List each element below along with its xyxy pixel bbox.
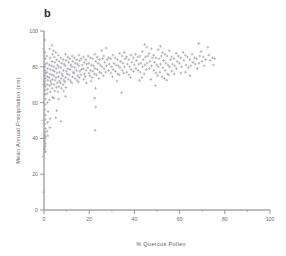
data-point: [132, 56, 135, 59]
data-point: [180, 72, 183, 75]
data-point: [173, 57, 176, 60]
data-point: [138, 79, 141, 82]
data-point: [56, 82, 59, 85]
data-point: [194, 63, 197, 66]
data-point: [166, 55, 169, 58]
data-point: [189, 74, 192, 77]
data-point: [198, 62, 201, 65]
data-point: [64, 76, 67, 79]
data-point: [50, 82, 53, 85]
data-point: [93, 53, 96, 56]
data-point: [143, 43, 146, 46]
data-point: [175, 67, 178, 70]
data-point: [60, 62, 63, 65]
data-point: [60, 87, 63, 90]
data-point: [82, 78, 85, 81]
data-point: [122, 72, 125, 75]
data-point: [84, 75, 87, 78]
data-point: [51, 78, 54, 81]
panel-label: b: [44, 7, 51, 19]
data-point: [145, 68, 148, 71]
data-point: [100, 49, 103, 52]
data-point: [96, 56, 99, 59]
data-point: [71, 55, 74, 58]
data-point: [140, 76, 143, 79]
data-point: [99, 64, 102, 67]
data-point: [135, 59, 138, 62]
data-point: [83, 73, 86, 76]
data-point: [77, 65, 80, 68]
data-point: [81, 64, 84, 67]
data-point: [44, 150, 47, 153]
data-point: [78, 59, 81, 62]
data-point: [149, 78, 152, 81]
data-point: [46, 83, 49, 86]
data-point: [110, 65, 113, 68]
data-point: [128, 65, 131, 68]
data-point: [153, 61, 156, 64]
data-point: [182, 51, 185, 54]
data-point: [114, 56, 117, 59]
data-point: [65, 86, 68, 89]
data-point: [57, 98, 60, 101]
data-point: [137, 69, 140, 72]
data-point: [141, 65, 144, 68]
data-point: [188, 58, 191, 61]
data-point: [62, 90, 65, 93]
data-point: [168, 49, 171, 52]
data-point: [119, 66, 122, 69]
data-point: [85, 69, 88, 72]
data-point: [133, 64, 136, 67]
data-point: [130, 68, 133, 71]
data-point: [126, 63, 129, 66]
data-point: [71, 75, 74, 78]
data-point: [64, 95, 67, 98]
data-point: [123, 65, 126, 68]
data-point: [112, 54, 115, 57]
y-tick-label: 40: [32, 135, 38, 141]
data-point: [54, 51, 57, 54]
data-point: [82, 56, 85, 59]
data-point: [146, 62, 149, 65]
data-point: [87, 55, 90, 58]
data-point: [198, 55, 201, 58]
data-point: [91, 76, 94, 79]
data-point: [93, 97, 96, 100]
data-point: [145, 46, 148, 49]
data-point: [148, 52, 151, 55]
data-point: [68, 57, 71, 60]
data-point: [200, 50, 203, 53]
data-point: [76, 79, 79, 82]
data-point: [142, 58, 145, 61]
data-point: [118, 52, 121, 55]
data-point: [79, 73, 82, 76]
data-point: [51, 60, 54, 63]
data-point: [48, 48, 51, 51]
scatter-plot: 020406080100020406080100% Quercus Pollen…: [0, 0, 286, 256]
data-point: [83, 61, 86, 64]
data-point: [164, 62, 167, 65]
data-point: [60, 77, 63, 80]
data-point: [157, 65, 160, 68]
data-point: [51, 87, 54, 90]
data-point: [154, 84, 157, 87]
data-point: [106, 58, 109, 61]
x-axis-title: % Quercus Pollen: [136, 241, 186, 247]
data-point: [94, 60, 97, 63]
data-point: [160, 55, 163, 58]
data-point: [71, 65, 74, 68]
data-point: [202, 56, 205, 59]
data-point: [66, 56, 69, 59]
data-point: [94, 129, 97, 132]
data-point: [86, 66, 89, 69]
data-point: [57, 90, 60, 93]
data-point: [49, 68, 52, 71]
data-point: [46, 101, 49, 104]
data-point: [125, 71, 128, 74]
data-point: [85, 82, 88, 85]
data-point: [64, 53, 67, 56]
data-point: [48, 84, 51, 87]
data-point: [46, 79, 49, 82]
data-point: [204, 58, 207, 61]
data-point: [187, 66, 190, 69]
